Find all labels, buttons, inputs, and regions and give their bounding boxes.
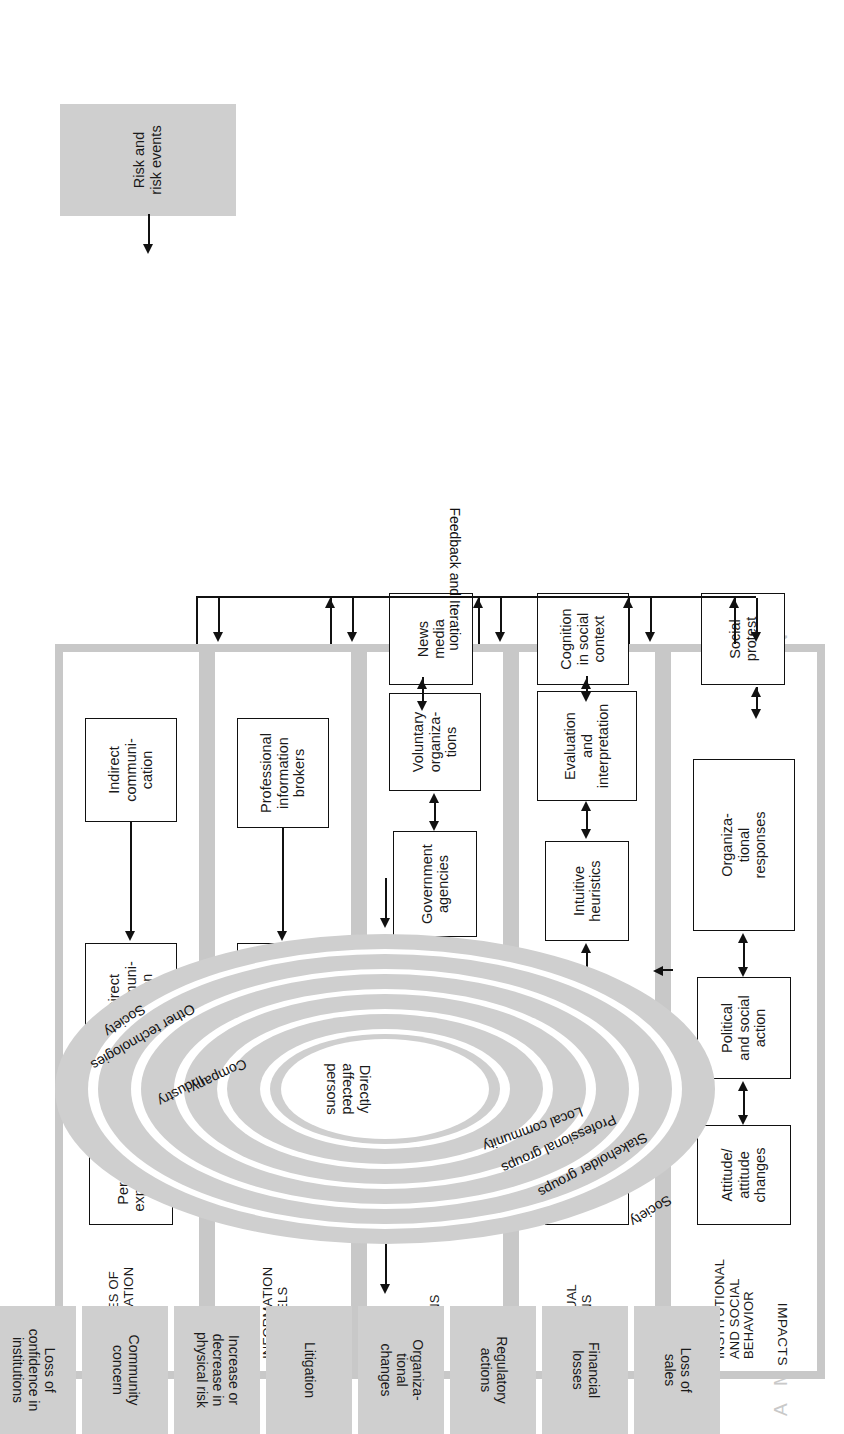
connector-attitude-political [743,1091,745,1115]
arrowhead-left [495,632,505,642]
arrowhead-left [645,632,655,642]
impact-increase-or-decrease-in-physical-risk: Increase or decrease in physical risk [174,1306,260,1434]
arrowhead-left [213,632,223,642]
arrowhead-left [143,244,153,254]
feedback-in-brokers [352,598,354,632]
arrowhead-left [751,709,761,719]
impact-community-concern: Community concern [82,1306,168,1434]
connector-frame-to-ripple [385,878,387,918]
feedback-in-cognition [650,598,652,632]
node-intuitive-heuristics: Intuitive heuristics [545,841,629,941]
arrowhead-right [729,598,739,608]
arrowhead-left [751,632,761,642]
ripple-effects-diagram: Directly affected persons Society Stakeh… [55,934,715,1244]
arrowhead-right [738,1081,748,1091]
node-social-protest: Social protest [701,593,785,685]
impact-litigation: Litigation [266,1306,352,1434]
connector-political-organizational [743,943,745,967]
arrowhead-left [429,821,439,831]
arrowhead-right [751,687,761,697]
arrowhead-right [623,598,633,608]
connector-heuristics-evaluation [586,809,588,829]
feedback-out-indirect [196,598,198,644]
feedback-in-news [500,598,502,632]
ripple-label-society-outer: Society [627,1192,674,1230]
node-evaluation-and-interpretation: Evaluation and interpretation [537,691,637,801]
impact-loss-of-sales: Loss of sales [634,1306,720,1434]
connector-ripple-to-impacts [385,1244,387,1284]
ripple-center-label: Directly affected persons [323,1039,373,1139]
arrowhead-left [738,967,748,977]
arrowhead-right [429,793,439,803]
node-organizational-responses: Organiza- tional responses [693,759,795,931]
arrowhead-right [738,933,748,943]
connector-indirect-to-direct [130,822,132,931]
arrowhead-left [380,918,390,928]
arrowhead-right [325,598,335,608]
feedback-and-iteration-label: Feedback and Iteration [447,507,463,650]
arrowhead-left [738,1115,748,1125]
impact-organizational-changes: Organiza- tional changes [358,1306,444,1434]
arrowhead-right [417,679,427,689]
node-professional-information-brokers: Professional information brokers [237,718,329,828]
connector-government-voluntary [434,801,436,821]
feedback-in-indirect [218,598,220,632]
figure-root: A M P L I F I C A T I O N A N D A T T E … [0,0,844,1434]
connector-brokers-to-informal [282,828,284,931]
arrowhead-left [417,701,427,711]
arrowhead-right [581,801,591,811]
impact-financial-losses: Financial losses [542,1306,628,1434]
arrowhead-left [581,829,591,839]
impact-loss-of-confidence-in-institutions: Loss of confidence in institutions [0,1306,76,1434]
node-voluntary-organizations: Voluntary organiza- tions [389,693,481,791]
connector-risk-to-frame [148,214,150,244]
node-government-agencies: Government agencies [393,831,477,937]
arrowhead-left [380,1284,390,1294]
node-indirect-communication: Indirect communi- cation [85,718,177,822]
risk-and-risk-events-box: Risk and risk events [60,104,236,216]
arrowhead-left [347,632,357,642]
arrowhead-left [581,692,591,702]
arrowhead-right [581,679,591,689]
arrowhead-right [473,598,483,608]
impact-regulatory-actions: Regulatory actions [450,1306,536,1434]
node-cognition-in-social-context: Cognition in social context [537,593,629,685]
feedback-in-protest [756,598,758,632]
ripple-core-hole [281,1039,489,1139]
impacts-header: IMPACTS [775,1303,790,1366]
figure-canvas: A M P L I F I C A T I O N A N D A T T E … [0,0,844,1434]
